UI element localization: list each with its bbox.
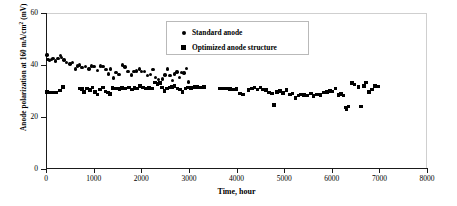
legend-square-marker-icon	[179, 45, 188, 50]
chart-figure: 0204060 01000200030004000500060007000800…	[0, 0, 457, 206]
x-tick-label: 7000	[359, 175, 399, 183]
x-tick-mark	[379, 168, 380, 173]
data-point-standard-anode	[96, 69, 99, 72]
data-point-optimized-anode-structure	[235, 87, 239, 91]
y-axis-title: Anode polarization at 160 mA/cm2 (mV)	[18, 0, 28, 142]
y-tick-mark	[41, 117, 46, 118]
data-point-standard-anode	[163, 73, 166, 76]
data-point-optimized-anode-structure	[376, 85, 380, 89]
y-tick-mark	[41, 13, 46, 14]
data-point-optimized-anode-structure	[150, 87, 154, 91]
data-point-standard-anode	[175, 70, 178, 73]
x-tick-mark	[284, 168, 285, 173]
data-point-optimized-anode-structure	[364, 81, 368, 85]
x-axis-title: Time, hour	[46, 187, 427, 196]
x-tick-mark	[141, 168, 142, 173]
x-tick-mark	[427, 168, 428, 173]
data-point-standard-anode	[45, 53, 48, 56]
data-point-optimized-anode-structure	[370, 88, 374, 92]
data-point-optimized-anode-structure	[82, 90, 86, 94]
x-tick-label: 6000	[312, 175, 352, 183]
data-point-standard-anode	[92, 65, 95, 68]
legend-item-standard-anode: Standard anode	[167, 25, 308, 40]
x-tick-mark	[189, 168, 190, 173]
data-point-optimized-anode-structure	[241, 93, 245, 97]
x-tick-label: 8000	[407, 175, 447, 183]
data-point-optimized-anode-structure	[362, 84, 366, 88]
x-tick-mark	[46, 168, 47, 173]
data-point-optimized-anode-structure	[181, 90, 185, 94]
data-point-optimized-anode-structure	[285, 88, 289, 92]
y-axis-title-main: Anode polarization at 160 mA/cm	[20, 24, 28, 131]
data-point-optimized-anode-structure	[347, 105, 351, 109]
data-point-optimized-anode-structure	[158, 81, 162, 85]
data-point-optimized-anode-structure	[58, 89, 62, 93]
data-point-optimized-anode-structure	[202, 85, 206, 89]
data-point-optimized-anode-structure	[291, 92, 295, 96]
x-tick-label: 3000	[169, 175, 209, 183]
x-tick-mark	[237, 168, 238, 173]
data-point-standard-anode	[112, 76, 115, 79]
legend-label-standard-anode: Standard anode	[192, 28, 242, 37]
data-point-standard-anode	[187, 80, 190, 83]
data-point-standard-anode	[166, 67, 169, 70]
x-tick-mark	[332, 168, 333, 173]
x-tick-mark	[94, 168, 95, 173]
y-tick-mark	[41, 65, 46, 66]
data-point-optimized-anode-structure	[331, 90, 335, 94]
data-point-optimized-anode-structure	[96, 93, 100, 97]
data-point-standard-anode	[107, 72, 110, 75]
y-tick-label: 0	[0, 165, 38, 173]
data-point-standard-anode	[104, 68, 107, 71]
data-point-optimized-anode-structure	[272, 103, 276, 107]
data-point-standard-anode	[123, 65, 126, 68]
legend-item-optimized-anode-structure: Optimized anode structure	[167, 40, 308, 55]
legend-label-optimized-anode-structure: Optimized anode structure	[192, 43, 277, 52]
data-point-optimized-anode-structure	[91, 86, 95, 90]
x-tick-label: 2000	[121, 175, 161, 183]
x-tick-label: 1000	[74, 175, 114, 183]
data-point-optimized-anode-structure	[359, 105, 363, 109]
y-axis-title-tail: (mV)	[20, 3, 28, 21]
data-point-optimized-anode-structure	[61, 85, 65, 89]
x-tick-label: 0	[26, 175, 66, 183]
data-point-standard-anode	[130, 73, 133, 76]
data-point-standard-anode	[117, 73, 120, 76]
data-point-optimized-anode-structure	[357, 85, 361, 89]
data-point-optimized-anode-structure	[270, 92, 274, 96]
x-tick-label: 4000	[217, 175, 257, 183]
data-point-optimized-anode-structure	[334, 87, 338, 91]
data-point-standard-anode	[168, 74, 171, 77]
legend-circle-marker-icon	[179, 31, 188, 35]
data-point-optimized-anode-structure	[342, 94, 346, 98]
data-point-standard-anode	[149, 73, 152, 76]
data-point-optimized-anode-structure	[54, 91, 58, 95]
x-tick-label: 5000	[264, 175, 304, 183]
data-point-standard-anode	[182, 71, 185, 74]
data-point-optimized-anode-structure	[108, 92, 112, 96]
chart-legend: Standard anode Optimized anode structure	[166, 21, 309, 55]
